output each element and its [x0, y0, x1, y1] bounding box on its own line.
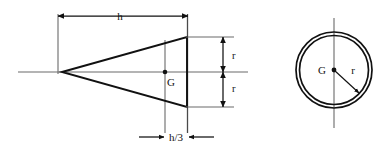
radius-lower-label: r	[232, 83, 236, 94]
cone-centroid-label: G	[167, 76, 175, 88]
diagram-canvas: h r r G h/3 G r	[0, 0, 389, 153]
circle-radius-label: r	[351, 64, 355, 76]
technical-diagram-figure: h r r G h/3 G r	[0, 0, 389, 153]
circle-centroid-label: G	[318, 64, 326, 76]
circle-center-point-marker	[332, 68, 337, 73]
height-label: h	[117, 10, 123, 22]
centroid-point-marker	[163, 70, 168, 75]
h3-label: h/3	[169, 131, 184, 143]
radius-upper-label: r	[232, 50, 236, 61]
